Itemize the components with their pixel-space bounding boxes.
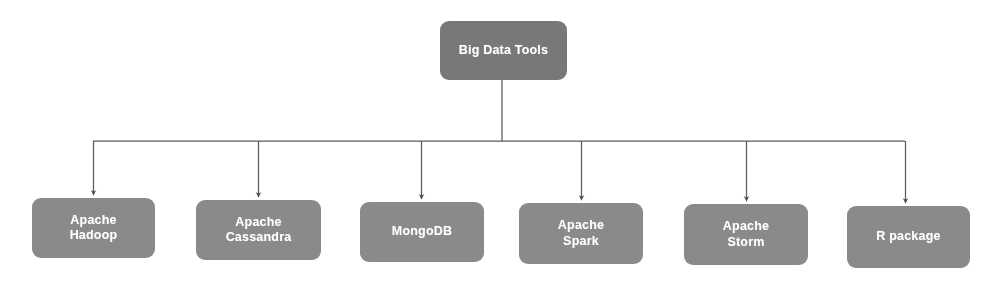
node-mongodb[interactable]: MongoDB [360, 202, 484, 262]
node-label: R package [870, 229, 946, 244]
node-apache-hadoop[interactable]: Apache Hadoop [32, 198, 155, 258]
node-label: Big Data Tools [453, 43, 554, 58]
diagram-canvas: Big Data Tools Apache Hadoop Apache Cass… [0, 0, 996, 286]
node-label: Apache Cassandra [220, 215, 298, 246]
node-big-data-tools[interactable]: Big Data Tools [440, 21, 567, 80]
node-r-package[interactable]: R package [847, 206, 970, 268]
node-label: MongoDB [386, 224, 458, 239]
node-apache-spark[interactable]: Apache Spark [519, 203, 643, 264]
node-apache-storm[interactable]: Apache Storm [684, 204, 808, 265]
node-label: Apache Storm [717, 219, 775, 250]
node-apache-cassandra[interactable]: Apache Cassandra [196, 200, 321, 260]
node-label: Apache Hadoop [64, 213, 124, 244]
node-label: Apache Spark [552, 218, 610, 249]
